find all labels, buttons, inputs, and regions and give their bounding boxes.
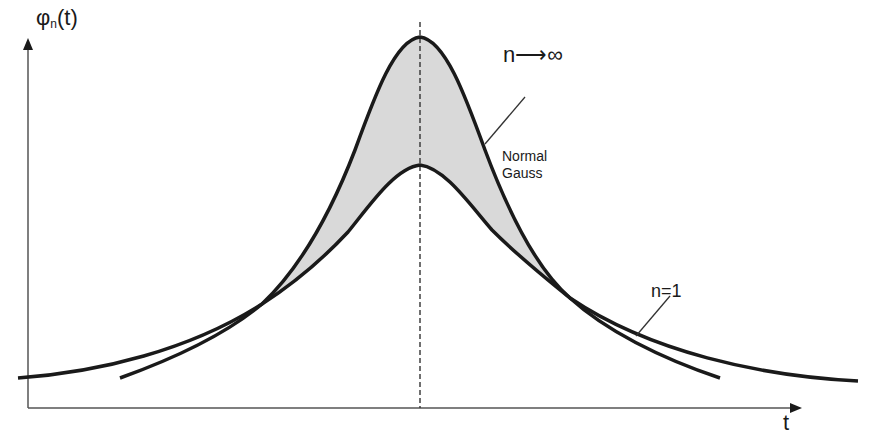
n1-curve-label: n=1 [651,282,682,300]
limit-curve-label: n⟶∞ [503,44,563,66]
normal-gauss-label: Normal Gauss [502,148,547,182]
y-axis-arrow-icon [23,38,33,50]
y-label-phi: φ [36,5,50,30]
x-axis-arrow-icon [790,403,802,413]
n1-leader-line [636,296,670,336]
gauss-leader-line [485,97,525,144]
y-axis-label: φn(t) [36,7,78,30]
y-label-argument: (t) [57,5,78,30]
characteristic-function-diagram [0,0,875,448]
x-axis-label: t [783,412,789,434]
curve-n-equals-1 [18,165,858,381]
normal-label-line2: Gauss [502,165,547,182]
y-label-subscript: n [50,17,57,31]
normal-label-line1: Normal [502,148,547,165]
